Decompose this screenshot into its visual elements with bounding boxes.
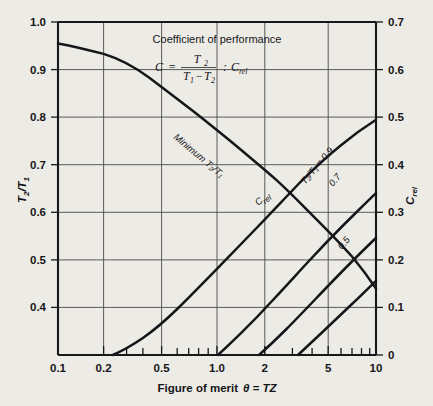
ytick-label-right-0-1: 0.1	[388, 301, 405, 313]
ratio-05-label: 0.5	[335, 234, 352, 252]
formula-numerator-sub: 2	[204, 59, 208, 68]
ytick-label-left-0-4: 0.4	[30, 301, 47, 313]
y-axis-right-title: Crel	[404, 186, 419, 205]
formula-separator: :	[223, 60, 227, 74]
y-right-tick-labels: 0.7 0.6 0.5 0.4 0.3 0.2 0.1 0	[388, 16, 405, 361]
xtick-label-5: 5	[325, 362, 332, 374]
grid-lines	[58, 22, 376, 355]
formula-denominator-b-sub: 2	[211, 76, 215, 85]
formula-group: C = T 2 T 1 − T 2 : C rel	[155, 52, 248, 85]
formula-equals: =	[168, 60, 176, 74]
formula-numerator: T	[194, 52, 202, 66]
x-axis-title-text: Figure of meritθ= TZ	[158, 382, 278, 394]
xtick-label-0: 0.1	[50, 362, 67, 374]
ytick-label-right-0-2: 0.2	[388, 254, 404, 266]
ratio-05-label-text: 0.5	[335, 234, 352, 252]
ytick-label-left-0-6: 0.6	[30, 206, 46, 218]
ytick-label-right-0-4: 0.4	[388, 159, 405, 171]
ytick-label-left-0-9: 0.9	[30, 64, 46, 76]
y-right-title-sub: rel	[410, 186, 419, 197]
chart-title: Coefficient of performance	[153, 33, 282, 45]
crel-curve-label: Crel	[252, 189, 273, 210]
ytick-label-left-0-5: 0.5	[30, 254, 47, 266]
ytick-label-left-0-7: 0.7	[30, 159, 46, 171]
ytick-label-right-0-7: 0.7	[388, 16, 404, 28]
y-left-tick-labels: 1.0 0.9 0.8 0.7 0.6 0.5 0.4	[30, 16, 47, 313]
x-axis-title: Figure of meritθ= TZ	[158, 382, 278, 394]
ytick-label-right-0: 0	[388, 349, 394, 361]
xtick-label-3: 1.0	[209, 362, 225, 374]
y-axis-left-title: T2/T1	[16, 176, 31, 203]
x-title-expr: = TZ	[252, 382, 277, 394]
x-tick-labels: 0.1 0.2 0.5 1.0 2 5 10	[50, 362, 382, 374]
formula-denominator-a-sub: 1	[190, 76, 194, 85]
ratio-07-label: 0.7	[326, 171, 343, 189]
minimum-ratio-label: Minimum T₂/T₁	[172, 131, 227, 179]
x-title-prefix: Figure of merit	[158, 382, 239, 394]
ytick-label-left-0-8: 0.8	[30, 111, 47, 123]
curve-annotations: Minimum T₂/T₁ Crel T₂/T₁ = 0.9 0.7 0.5	[172, 131, 353, 251]
minimum-ratio-label-text: Minimum T₂/T₁	[172, 131, 227, 179]
curve-ratio-09	[218, 193, 376, 355]
xtick-label-2: 0.5	[154, 362, 171, 374]
ytick-label-right-0-6: 0.6	[388, 64, 404, 76]
formula-rhs-sub: rel	[239, 67, 248, 76]
ratio-07-label-text: 0.7	[326, 171, 343, 189]
xtick-label-6: 10	[370, 362, 383, 374]
chart-canvas: Coefficient of performance C = T 2 T 1 −…	[0, 0, 433, 406]
formula-lhs: C	[155, 60, 164, 74]
y-left-title-text: T2/T1	[16, 176, 31, 203]
xtick-label-4: 2	[262, 362, 268, 374]
ytick-label-left-1-0: 1.0	[30, 16, 46, 28]
y-right-title-text: Crel	[404, 186, 419, 205]
curve-ratio-05	[298, 281, 376, 355]
figure-container: Coefficient of performance C = T 2 T 1 −…	[0, 0, 433, 406]
y-left-title-sub2: 1	[22, 176, 31, 181]
formula-minus: −	[195, 69, 203, 83]
x-minor-ticks	[104, 346, 370, 355]
ytick-label-right-0-5: 0.5	[388, 111, 405, 123]
x-title-symbol: θ	[243, 382, 250, 394]
ytick-label-right-0-3: 0.3	[388, 206, 404, 218]
xtick-label-1: 0.2	[96, 362, 112, 374]
